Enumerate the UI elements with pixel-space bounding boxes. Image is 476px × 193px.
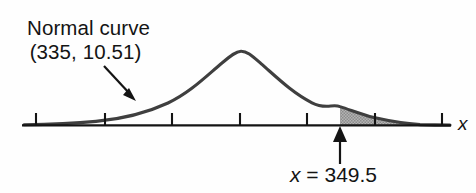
x-value-arrow-icon (333, 126, 347, 164)
x-value-equals: = (306, 163, 318, 186)
x-value-variable: x (290, 163, 301, 186)
x-value-annotation: x = 349.5 (290, 163, 377, 188)
normal-curve-annotation-line2: (335, 10.51) (27, 40, 150, 64)
x-axis-label: x (458, 113, 468, 135)
normal-curve-annotation: Normal curve (335, 10.51) (27, 16, 150, 64)
x-value-number: 349.5 (324, 163, 377, 186)
normal-curve-figure: Normal curve (335, 10.51) x x = 349.5 (0, 0, 476, 193)
normal-curve-annotation-line1: Normal curve (27, 16, 150, 39)
callout-arrow-icon (104, 66, 136, 101)
